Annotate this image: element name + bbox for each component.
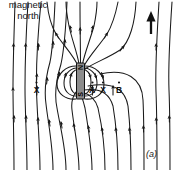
field-line-from-north (66, 2, 79, 64)
field-arrow (129, 128, 130, 134)
field-arrow (95, 73, 96, 78)
bar-magnet: N S (77, 63, 85, 99)
field-line-into-south (83, 93, 105, 171)
magnetic-field-diagram: N S X A X B (0, 0, 180, 170)
figure-canvas: N S X A X B magnetic north (a) (0, 0, 180, 170)
field-loop-left (57, 66, 76, 99)
field-arrow (65, 73, 66, 78)
field-line-into-south (72, 92, 79, 170)
field-line (13, 2, 15, 170)
field-arrow (104, 33, 107, 38)
field-line-from-north (85, 2, 136, 69)
field-arrow (120, 46, 124, 51)
field-line (169, 2, 172, 170)
point-dot-neutral-left (35, 81, 37, 83)
field-line (25, 2, 28, 170)
field-arrow (70, 74, 71, 78)
point-dot-b (118, 81, 120, 83)
field-line-into-south (80, 93, 92, 170)
field-arrow (53, 42, 54, 48)
point-dot-a (91, 81, 93, 83)
field-line-from-north (84, 2, 118, 66)
field-loop-left (70, 70, 76, 94)
field-arrow (90, 74, 91, 78)
figure-caption: (a) (146, 150, 157, 159)
field-line-from-north (83, 2, 98, 64)
magnet-north-pole-label: N (77, 65, 84, 70)
field-arrow (56, 33, 59, 38)
up-arrow-icon (146, 11, 155, 34)
point-label-neutral-left: X (34, 85, 40, 95)
field-line (45, 2, 55, 170)
point-label-neutral-right: X (100, 85, 106, 95)
point-label-a: A (89, 85, 95, 95)
point-label-b: B (116, 85, 122, 95)
magnet-south-pole-label: S (77, 92, 84, 97)
point-dot-neutral-right (102, 81, 104, 83)
field-line (156, 2, 159, 170)
